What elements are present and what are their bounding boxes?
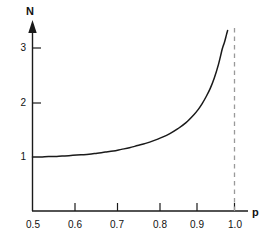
y-tick-label-3: 3 [12, 43, 26, 53]
x-tick-label-1-0: 1.0 [220, 220, 250, 230]
y-axis [28, 20, 36, 211]
y-axis-arrowhead [28, 20, 36, 33]
x-axis-ticks [75, 203, 235, 211]
chart-figure: N p 3 2 1 0.5 0.6 0.7 0.8 0.9 1.0 [0, 0, 273, 241]
x-tick-label-0-9: 0.9 [182, 220, 212, 230]
x-axis-title: p [252, 207, 259, 218]
x-tick-label-0-7: 0.7 [102, 220, 132, 230]
y-tick-label-2: 2 [12, 98, 26, 108]
data-curve [33, 31, 228, 157]
y-tick-label-1: 1 [12, 152, 26, 162]
x-tick-label-0-5: 0.5 [18, 220, 48, 230]
x-tick-label-0-8: 0.8 [145, 220, 175, 230]
y-axis-title: N [26, 6, 34, 17]
x-tick-label-0-6: 0.6 [60, 220, 90, 230]
y-axis-ticks [33, 48, 42, 103]
plot-area [0, 0, 273, 241]
